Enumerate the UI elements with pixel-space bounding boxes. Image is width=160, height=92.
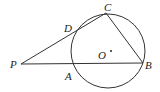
center-dot bbox=[110, 50, 112, 52]
geometry-diagram: P A B C D O bbox=[0, 0, 160, 92]
label-a: A bbox=[64, 70, 72, 82]
label-o: O bbox=[98, 49, 106, 61]
segment-pc bbox=[21, 13, 106, 64]
label-c: C bbox=[104, 1, 112, 13]
label-d: D bbox=[63, 22, 72, 34]
segment-cb bbox=[106, 13, 143, 63]
segment-pb bbox=[21, 63, 143, 64]
label-b: B bbox=[145, 59, 152, 71]
label-p: P bbox=[9, 58, 17, 70]
